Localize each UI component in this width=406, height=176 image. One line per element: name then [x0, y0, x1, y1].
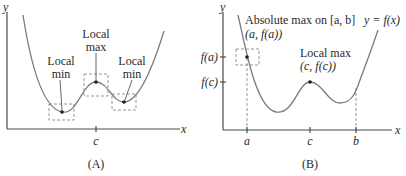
local-min-label-left-line1: Local — [47, 54, 75, 68]
x-axis-label: x — [394, 123, 401, 137]
local-min-label-right-line2: min — [123, 67, 142, 81]
panel-b-caption: (B) — [302, 157, 318, 171]
panel-a: y x Local min Local max Local min c (A) — [2, 0, 187, 171]
local-max-point — [94, 80, 98, 84]
local-min-point-left — [60, 110, 64, 114]
local-max-point — [308, 80, 312, 84]
local-max-label-line2: max — [86, 40, 107, 54]
local-max-label: Local max — [300, 46, 351, 60]
x-tick-label-c: c — [307, 134, 313, 148]
x-axis-label: x — [180, 122, 187, 136]
y-tick-label-fc: f(c) — [201, 75, 218, 89]
panel-a-caption: (A) — [88, 157, 105, 171]
panel-b: y x f(a) f(c) a c b Absolute max on [a, … — [201, 0, 401, 171]
leader-line — [60, 80, 62, 110]
x-tick-label-a: a — [244, 134, 250, 148]
x-tick-label-b: b — [353, 134, 359, 148]
x-tick-label-c: c — [93, 134, 99, 148]
absolute-max-label: Absolute max on [a, b] — [245, 13, 355, 27]
y-tick-label-fa: f(a) — [201, 50, 218, 64]
absolute-max-point — [245, 55, 249, 59]
local-min-label-left-line2: min — [52, 67, 71, 81]
local-max-label-line1: Local — [82, 27, 110, 41]
local-min-label-right-line1: Local — [118, 54, 146, 68]
function-label: y = f(x) — [363, 13, 400, 27]
absolute-max-coords: (a, f(a)) — [245, 27, 282, 41]
leader-line — [125, 80, 132, 100]
local-min-point-right — [122, 100, 126, 104]
extrema-diagram: y x Local min Local max Local min c (A) — [0, 0, 406, 176]
local-max-coords: (c, f(c)) — [300, 59, 336, 73]
y-axis-label: y — [219, 0, 226, 14]
y-axis-label: y — [2, 0, 9, 14]
